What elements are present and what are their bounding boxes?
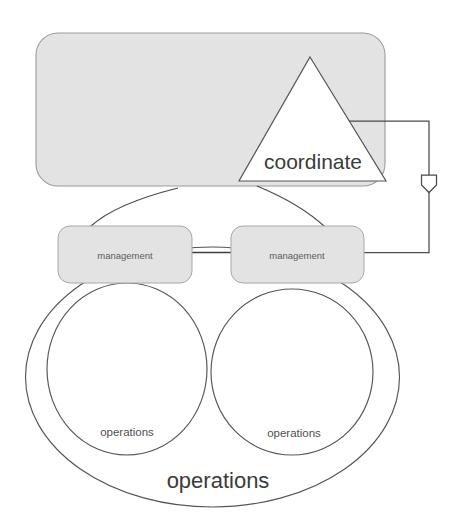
coordinate-label: coordinate: [264, 150, 362, 173]
operations-outer-label: operations: [167, 468, 270, 493]
management-left-label: management: [97, 250, 153, 261]
operations-right-label: operations: [267, 427, 321, 439]
diagram-canvas: coordinate management management operati…: [0, 0, 453, 531]
feedback-arrowhead-icon: [422, 175, 437, 193]
system-diagram: coordinate management management operati…: [0, 0, 453, 531]
management-right-label: management: [269, 250, 325, 261]
connector-coordinate-to-management-left: [90, 188, 178, 227]
operations-left-label: operations: [100, 426, 154, 438]
connector-coordinate-to-management-right: [257, 186, 325, 227]
